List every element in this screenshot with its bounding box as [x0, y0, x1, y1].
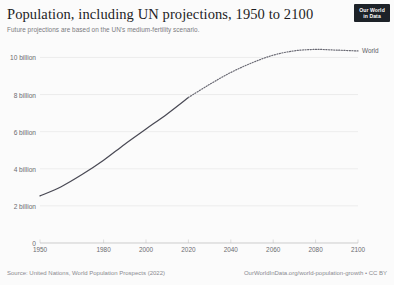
y-axis-tick-label: 10 billion [10, 54, 36, 61]
logo-line-2: in Data [363, 13, 381, 20]
chart-header: Population, including UN projections, 19… [7, 6, 387, 34]
x-axis-tick-label: 2020 [181, 246, 195, 253]
x-axis-tick-label: 2040 [224, 246, 238, 253]
x-axis-tick-label: 2060 [266, 246, 280, 253]
x-axis-tick-label: 1980 [96, 246, 110, 253]
gridlines [40, 57, 358, 205]
y-axis-tick-label: 4 billion [14, 165, 36, 172]
series-line-historical [40, 97, 188, 195]
our-world-in-data-logo[interactable]: Our World in Data [354, 4, 390, 22]
footer-license-link[interactable]: OurWorldInData.org/world-population-grow… [244, 270, 387, 276]
y-axis-tick-label: 2 billion [14, 202, 36, 209]
y-axis-tick-label: 6 billion [14, 128, 36, 135]
chart-subtitle: Future projections are based on the UN's… [7, 25, 387, 34]
page-title: Population, including UN projections, 19… [7, 6, 387, 22]
chart-footer: Source: United Nations, World Population… [7, 270, 387, 279]
x-axis-tick-label: 2000 [139, 246, 153, 253]
y-axis-tick-label: 8 billion [14, 91, 36, 98]
tickmarks [40, 240, 358, 244]
plot-area: 02 billion4 billion6 billion8 billion10 … [40, 50, 358, 243]
series-label-world: World [362, 46, 379, 53]
x-axis-tick-label: 1950 [33, 246, 47, 253]
chart-root: Population, including UN projections, 19… [0, 0, 394, 285]
footer-source-text: Source: United Nations, World Population… [7, 270, 165, 276]
chart-canvas [40, 50, 358, 243]
series-line-projection [188, 49, 358, 97]
x-axis-tick-label: 2100 [351, 246, 365, 253]
x-axis-tick-label: 2080 [308, 246, 322, 253]
